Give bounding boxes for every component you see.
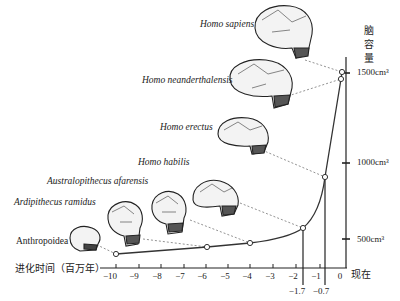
skull-erectus-icon bbox=[218, 118, 268, 154]
x-tick-m3: −3 bbox=[265, 272, 275, 281]
skull-australopithecus-icon bbox=[152, 191, 186, 234]
y-title-char-2: 容 bbox=[364, 40, 374, 50]
skull-ardipithecus-icon bbox=[108, 202, 142, 246]
x-tick-m7: −7 bbox=[175, 272, 185, 281]
y-tick-500: 500cm³ bbox=[357, 235, 384, 244]
x-tick-m9: −9 bbox=[129, 272, 139, 281]
brain-evolution-chart: Homo sapiens Homo neanderthalensis Homo … bbox=[0, 0, 400, 301]
y-tick-1500: 1500cm³ bbox=[357, 68, 389, 77]
label-homo-erectus: Homo erectus bbox=[160, 123, 213, 133]
x-extra-tick-1-7: −1.7 bbox=[289, 287, 305, 296]
x-tick-m8: −8 bbox=[152, 272, 162, 281]
label-homo-habilis: Homo habilis bbox=[138, 158, 189, 168]
skull-neanderthal-icon bbox=[230, 60, 292, 108]
skull-anthropoidea-icon bbox=[70, 226, 100, 251]
x-tick-m10: −10 bbox=[103, 272, 117, 281]
y-ticks bbox=[340, 73, 350, 239]
chart-canvas bbox=[0, 0, 400, 301]
x-axis-end-label: 现在 bbox=[351, 270, 371, 280]
x-tick-m1: −1 bbox=[311, 272, 321, 281]
x-tick-m2: −2 bbox=[288, 272, 298, 281]
skull-habilis-icon bbox=[193, 180, 238, 216]
label-homo-neanderthalensis: Homo neanderthalensis bbox=[142, 76, 233, 86]
label-ardipithecus-ramidus: Ardipithecus ramidus bbox=[14, 198, 96, 208]
skull-sapiens-icon bbox=[255, 6, 312, 58]
x-tick-m5: −5 bbox=[220, 272, 230, 281]
label-anthropoidea: Anthropoidea bbox=[16, 237, 68, 247]
y-tick-1000: 1000cm³ bbox=[357, 158, 389, 167]
y-title-char-3: 量 bbox=[364, 54, 374, 64]
x-axis-title: 进化时间（百万年） bbox=[15, 264, 105, 274]
y-title-char-1: 脑 bbox=[364, 26, 374, 36]
x-tick-m4: −4 bbox=[242, 272, 252, 281]
x-tick-0: 0 bbox=[338, 272, 343, 281]
label-australopithecus-afarensis: Australopithecus afarensis bbox=[47, 177, 148, 187]
x-tick-m6: −6 bbox=[197, 272, 207, 281]
axes bbox=[100, 57, 347, 285]
x-extra-tick-0-7: −0.7 bbox=[313, 287, 329, 296]
label-homo-sapiens: Homo sapiens bbox=[200, 20, 254, 30]
